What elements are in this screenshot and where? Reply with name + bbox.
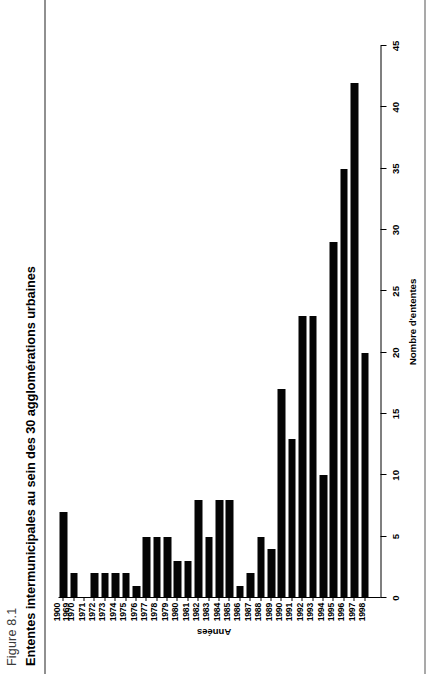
- value-tick: [380, 474, 386, 475]
- value-tick: [380, 597, 386, 598]
- bar: [194, 500, 202, 598]
- category-tick: [145, 598, 146, 602]
- bar-row: 1984: [214, 46, 224, 598]
- category-label: 1977: [139, 603, 148, 621]
- bar-row: 1971: [79, 46, 89, 598]
- category-label: 1996: [336, 603, 345, 621]
- footer-divider: [424, 0, 425, 674]
- category-tick: [280, 598, 281, 602]
- value-tick-label: 25: [389, 286, 400, 297]
- bar: [163, 537, 171, 598]
- category-tick: [135, 598, 136, 602]
- bar-row: 1990: [276, 46, 286, 598]
- bar: [267, 549, 275, 598]
- bar-row: 1989: [266, 46, 276, 598]
- bar: [111, 573, 119, 598]
- bar-row: 1978: [152, 46, 162, 598]
- value-tick-label: 10: [389, 470, 400, 481]
- value-axis-title: Nombre d'ententes: [406, 46, 417, 598]
- bar: [329, 242, 337, 598]
- rotated-canvas: Figure 8.1 Ententes intermunicipales au …: [0, 0, 431, 674]
- value-tick: [380, 536, 386, 537]
- value-tick: [380, 229, 386, 230]
- category-tick: [301, 598, 302, 602]
- bar: [350, 83, 358, 598]
- category-tick: [62, 598, 63, 602]
- bar-row: 19001969: [58, 46, 68, 598]
- category-label: 1978: [149, 603, 158, 621]
- bar-row: 1981: [183, 46, 193, 598]
- value-tick-label: 5: [389, 534, 400, 539]
- category-tick: [104, 598, 105, 602]
- category-label: 1986: [232, 603, 241, 621]
- category-label: 1998: [357, 603, 366, 621]
- category-tick: [125, 598, 126, 602]
- category-label: 1984: [212, 603, 221, 621]
- bar-row: 1985: [224, 46, 234, 598]
- bar-row: 1994: [318, 46, 328, 598]
- bar: [173, 561, 181, 598]
- value-tick-label: 0: [389, 595, 400, 600]
- value-tick-label: 30: [389, 225, 400, 236]
- bar-row: 1980: [172, 46, 182, 598]
- category-label: 1973: [97, 603, 106, 621]
- value-tick-label: 15: [389, 409, 400, 420]
- category-tick: [187, 598, 188, 602]
- bar: [142, 537, 150, 598]
- bar: [122, 573, 130, 598]
- bar-row: 1972: [89, 46, 99, 598]
- category-tick: [156, 598, 157, 602]
- category-label: 1991: [284, 603, 293, 621]
- category-label: 1985: [222, 603, 231, 621]
- bar: [361, 353, 369, 598]
- chart-plot-area: 1900196919701971197219731974197519761977…: [58, 46, 398, 598]
- bar-row: 1970: [68, 46, 78, 598]
- value-tick-label: 20: [389, 347, 400, 358]
- category-label: 1976: [129, 603, 138, 621]
- bar-row: 1977: [141, 46, 151, 598]
- bar: [319, 475, 327, 598]
- bar: [215, 500, 223, 598]
- value-tick: [380, 290, 386, 291]
- category-tick: [270, 598, 271, 602]
- category-label: 1979: [160, 603, 169, 621]
- category-label: 1975: [118, 603, 127, 621]
- bar-row: 1973: [100, 46, 110, 598]
- category-label: 1993: [305, 603, 314, 621]
- bar: [59, 512, 67, 598]
- category-label: 1983: [201, 603, 210, 621]
- bar: [257, 537, 265, 598]
- category-axis: [58, 597, 380, 598]
- category-tick: [208, 598, 209, 602]
- category-label: 1980: [170, 603, 179, 621]
- bar: [153, 537, 161, 598]
- bar-row: 1993: [307, 46, 317, 598]
- category-tick: [332, 598, 333, 602]
- bar: [288, 439, 296, 598]
- category-tick: [260, 598, 261, 602]
- value-tick: [380, 413, 386, 414]
- bar-row: 1995: [328, 46, 338, 598]
- bar: [309, 316, 317, 598]
- category-label: 1981: [181, 603, 190, 621]
- value-axis: [380, 46, 381, 598]
- category-label: 1982: [191, 603, 200, 621]
- bar-row: 1997: [349, 46, 359, 598]
- category-label: 1992: [295, 603, 304, 621]
- category-axis-title: Années: [196, 627, 230, 638]
- bar: [340, 169, 348, 598]
- category-label: 1971: [77, 603, 86, 621]
- category-label: 1987: [243, 603, 252, 621]
- category-label: 1972: [87, 603, 96, 621]
- bar-row: 1983: [203, 46, 213, 598]
- bar-row: 1996: [339, 46, 349, 598]
- value-tick: [380, 352, 386, 353]
- category-tick: [239, 598, 240, 602]
- value-tick: [380, 106, 386, 107]
- category-tick: [312, 598, 313, 602]
- category-tick: [166, 598, 167, 602]
- bar-row: 1982: [193, 46, 203, 598]
- bar-row: 1979: [162, 46, 172, 598]
- category-label: 1974: [108, 603, 117, 621]
- category-label: 1990: [274, 603, 283, 621]
